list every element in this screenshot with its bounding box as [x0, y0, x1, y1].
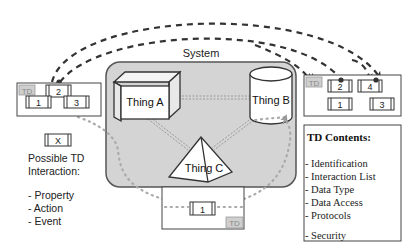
td-contents-item: - Identification	[305, 158, 368, 169]
td-left: TD 2 1 3	[17, 83, 101, 116]
td-right-interaction-1[interactable]: 1	[337, 100, 342, 110]
td-left-interaction-1[interactable]: 1	[36, 98, 41, 108]
legend-symbol: X	[55, 136, 61, 146]
legend-item-action: - Action	[28, 202, 63, 214]
system-label: System	[183, 47, 220, 59]
thing-b-label: Thing B	[252, 94, 290, 106]
td-contents-item: - Protocols	[305, 210, 351, 221]
td-right-interaction-2[interactable]: 2	[337, 82, 342, 92]
legend-title-line1: Possible TD	[28, 152, 85, 164]
legend-item-event: - Event	[28, 215, 61, 227]
td-left-tag: TD	[22, 87, 33, 96]
td-bottom-tag: TD	[229, 219, 240, 228]
td-contents-item: - Data Type	[305, 184, 355, 195]
legend-item-property: - Property	[28, 189, 75, 201]
td-bottom: TD 1	[162, 187, 244, 229]
td-right-interaction-4[interactable]: 4	[367, 82, 372, 92]
td-contents-item: - Interaction List	[305, 171, 376, 182]
thing-a-label: Thing A	[126, 96, 164, 108]
td-contents-item: - Security	[305, 230, 347, 241]
td-contents-item: - Data Access	[305, 197, 363, 208]
td-right-tag: TD	[309, 79, 320, 88]
td-right: TD 2 4 1 3	[304, 75, 401, 116]
thing-c-label: Thing C	[185, 162, 224, 174]
td-contents-box: TD Contents: - Identification - Interact…	[304, 125, 401, 241]
legend: X Possible TD Interaction: - Property - …	[28, 134, 85, 227]
td-contents-title: TD Contents:	[307, 131, 371, 143]
td-bottom-interaction-1[interactable]: 1	[200, 205, 205, 215]
td-right-interaction-3[interactable]: 3	[379, 100, 384, 110]
system-diagram: System Thing A Thing B Thing C	[0, 0, 415, 252]
legend-title-line2: Interaction:	[28, 165, 80, 177]
td-left-interaction-3[interactable]: 3	[74, 98, 79, 108]
td-left-interaction-2[interactable]: 2	[56, 87, 61, 97]
